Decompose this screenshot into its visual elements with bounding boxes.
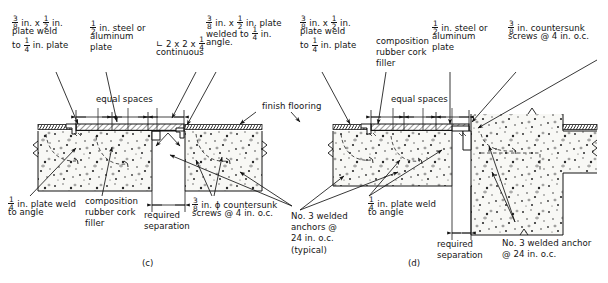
figure-caption-d: (d) <box>408 258 420 268</box>
annotation-required-separation-right: requiredseparation <box>437 239 483 261</box>
required-separation-dimension-d <box>452 186 471 240</box>
annotation-plate-weld-right: 38 in. x 12 in.plate weldto 14 in. plate <box>300 15 356 49</box>
annotation-composition-filler-left: compositionrubber corkfiller <box>85 196 138 230</box>
annotation-plate-welded-to-angle: 38 in. x 12 in. platewelded to 14 in.ang… <box>206 15 282 49</box>
concrete-slab-c-left <box>33 127 152 191</box>
annotation-steel-aluminum-plate-right: 12 in. steel oraluminumplate <box>432 20 488 54</box>
figure-caption-c: (c) <box>142 258 153 268</box>
annotation-plate-weld-left: 38 in. x 12 in.plate weldto 14 in. plate <box>12 15 68 49</box>
annotation-quarter-plate-weld-to-angle-right: 14 in. plate weldto angle <box>368 196 436 218</box>
cover-plate-c <box>76 124 184 130</box>
annotation-equal-spaces-right: equal spaces <box>391 94 448 105</box>
annotation-countersunk-screws-right: 38 in. countersunkscrews @ 4 in. o.c. <box>508 20 589 42</box>
engineering-detail-figure: 38 in. x 12 in.plate weldto 14 in. plate… <box>0 0 608 283</box>
concrete-slab-d-left <box>328 131 452 186</box>
required-separation-dimension-c <box>152 191 185 212</box>
annotation-welded-anchor-right: No. 3 welded anchor@ 24 in. o.c. <box>502 238 591 260</box>
annotation-countersunk-screws-left: 38 in. ϕ countersunkscrews @ 4 in. o.c. <box>192 197 277 219</box>
annotation-steel-aluminum-plate-left: 12 in. steel oraluminumplate <box>90 20 146 54</box>
annotation-equal-spaces-left: equal spaces <box>96 94 153 105</box>
annotation-quarter-plate-weld-to-angle-left: 14 in. plate weldto angle <box>8 196 76 218</box>
annotation-composition-filler-right: compositionrubber corkfiller <box>376 36 429 70</box>
annotation-required-separation-left: requiredseparation <box>144 210 190 232</box>
annotation-angle-continuous: ∟ 2 x 2 x 14continuous <box>156 36 205 58</box>
annotation-finish-flooring: finish flooring <box>262 101 321 112</box>
annotation-welded-anchors-typical: No. 3 weldedanchors @24 in. o.c.(typical… <box>291 211 348 256</box>
